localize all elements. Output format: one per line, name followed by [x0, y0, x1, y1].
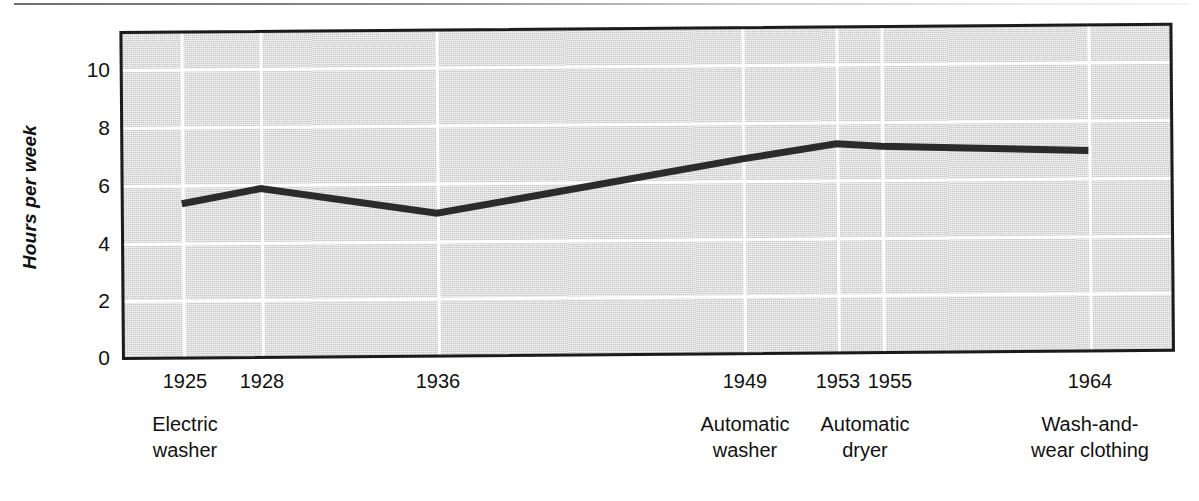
caption-automatic-dryer: Automatic dryer [795, 411, 935, 463]
x-tick-1955: 1955 [840, 370, 940, 392]
x-tick-1964: 1964 [1040, 370, 1140, 392]
x-tick-1949: 1949 [695, 370, 795, 392]
y-axis-label: Hours per week [19, 107, 41, 287]
plot-frame-border [119, 23, 1175, 360]
y-tick-0: 0 [70, 347, 110, 368]
caption-electric-washer: Electric washer [115, 411, 255, 463]
caption-wash-and-wear: Wash-and- wear clothing [1000, 411, 1180, 463]
y-axis-ticks: 10 8 6 4 2 0 [62, 0, 110, 501]
y-tick-8: 8 [70, 117, 110, 138]
top-divider-rule [14, 3, 1190, 5]
y-tick-10: 10 [70, 59, 110, 80]
caption-automatic-washer: Automatic washer [675, 411, 815, 463]
y-tick-4: 4 [70, 233, 110, 254]
y-tick-2: 2 [70, 290, 110, 311]
y-tick-6: 6 [70, 175, 110, 196]
plot-area [122, 31, 1175, 360]
x-tick-1928: 1928 [212, 370, 312, 392]
plot-skew-wrapper [119, 23, 1175, 360]
chart-page: Hours per week 10 8 6 4 2 0 [0, 0, 1199, 501]
x-tick-1936: 1936 [388, 370, 488, 392]
